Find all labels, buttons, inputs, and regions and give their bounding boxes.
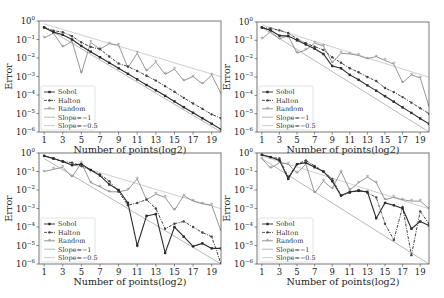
marker-circle-icon [375, 196, 377, 198]
y-tick-label: 10−3 [234, 71, 253, 82]
legend-item-label: Sobol [276, 220, 295, 228]
marker-star-icon: * [154, 190, 157, 197]
y-tick-label: 10−2 [16, 184, 35, 195]
legend-item-label: Halton [58, 229, 80, 237]
marker-circle-icon [99, 48, 101, 50]
marker-star-icon: * [384, 196, 387, 203]
marker-star-icon: * [108, 188, 111, 195]
marker-square-icon [173, 226, 175, 228]
marker-star-icon: * [182, 192, 185, 199]
marker-star-icon: * [154, 58, 157, 65]
marker-square-icon [127, 73, 129, 75]
marker-square-icon [71, 38, 73, 40]
y-tick-label: 10−2 [234, 184, 253, 195]
marker-star-icon: * [43, 168, 46, 175]
marker-square-icon [375, 217, 377, 219]
marker-circle-icon [340, 62, 342, 64]
marker-square-icon [366, 84, 368, 86]
y-tick-label: 10−1 [16, 166, 35, 177]
marker-star-icon: * [61, 163, 64, 170]
marker-circle-icon [393, 239, 395, 241]
marker-star-icon: * [392, 193, 395, 200]
marker-circle-icon [192, 102, 194, 104]
marker-star-icon: * [136, 49, 139, 56]
marker-star-icon: * [340, 49, 343, 56]
marker-circle-icon [183, 97, 185, 99]
marker-star-icon: * [52, 165, 55, 172]
marker-square-icon [269, 156, 271, 158]
x-tick-label: 19 [206, 135, 217, 145]
marker-square-icon [89, 50, 91, 52]
marker-circle-icon [108, 55, 110, 57]
y-tick-label: 10−1 [234, 34, 253, 45]
marker-square-icon [108, 183, 110, 185]
svg-text:*: * [266, 105, 269, 112]
svg-text:*: * [48, 237, 51, 244]
marker-star-icon: * [419, 74, 422, 81]
y-tick-label: 10−6 [234, 258, 253, 269]
marker-square-icon [278, 159, 280, 161]
y-axis-label: Error [3, 195, 14, 222]
marker-circle-icon [136, 70, 138, 72]
marker-circle-icon [164, 85, 166, 87]
marker-square-icon [349, 74, 351, 76]
marker-star-icon: * [136, 175, 139, 182]
marker-square-icon [410, 112, 412, 114]
marker-circle-icon [145, 75, 147, 77]
y-tick-label: 10−3 [16, 203, 35, 214]
marker-circle-icon [305, 159, 307, 161]
marker-circle-icon [322, 49, 324, 51]
marker-circle-icon [173, 223, 175, 225]
marker-circle-icon [201, 108, 203, 110]
marker-square-icon [80, 163, 82, 165]
y-tick-label: 10−3 [234, 203, 253, 214]
marker-star-icon: * [419, 197, 422, 204]
marker-star-icon: * [173, 206, 176, 213]
marker-circle-icon [108, 180, 110, 182]
marker-square-icon [296, 39, 298, 41]
marker-star-icon: * [71, 173, 74, 180]
marker-square-icon [278, 34, 280, 36]
marker-star-icon: * [108, 40, 111, 47]
marker-circle-icon [393, 91, 395, 93]
marker-square-icon [43, 155, 45, 157]
marker-square-icon [340, 67, 342, 69]
marker-square-icon [366, 191, 368, 193]
y-tick-label: 10−4 [234, 221, 253, 232]
legend-item-label: Sobol [58, 220, 77, 228]
legend-item-label: Slope=−0.5 [276, 254, 316, 262]
marker-star-icon: * [164, 193, 167, 200]
marker-square-icon [71, 164, 73, 166]
y-tick-label: 10−5 [234, 108, 253, 119]
legend-item-label: Halton [58, 97, 80, 105]
marker-star-icon: * [201, 80, 204, 87]
marker-square-icon [136, 78, 138, 80]
marker-square-icon [322, 170, 324, 172]
legend-item-label: Slope=−0.5 [276, 122, 316, 130]
marker-star-icon: * [366, 55, 369, 62]
marker-circle-icon [278, 29, 280, 31]
svg-text:*: * [266, 237, 269, 244]
marker-circle-icon [201, 231, 203, 233]
marker-star-icon: * [98, 183, 101, 190]
y-tick-label: 10−2 [16, 52, 35, 63]
marker-square-icon [192, 245, 194, 247]
marker-star-icon: * [296, 49, 299, 56]
y-tick-label: 10−1 [234, 166, 253, 177]
x-tick-label: 19 [415, 135, 426, 145]
y-tick-label: 10−4 [16, 221, 35, 232]
marker-circle-icon [349, 67, 351, 69]
marker-circle-icon [384, 223, 386, 225]
legend-item-label: Random [58, 105, 85, 113]
y-tick-label: 100 [21, 147, 36, 158]
marker-square-icon [357, 190, 359, 192]
marker-circle-icon [401, 96, 403, 98]
legend-item-label: Sobol [276, 88, 295, 96]
y-tick-label: 100 [239, 147, 254, 158]
y-tick-label: 10−6 [16, 126, 35, 137]
marker-circle-icon [173, 91, 175, 93]
marker-square-icon [62, 34, 64, 36]
legend-item-label: Slope=−1 [276, 246, 309, 254]
marker-square-icon [201, 242, 203, 244]
marker-square-icon [401, 106, 403, 108]
